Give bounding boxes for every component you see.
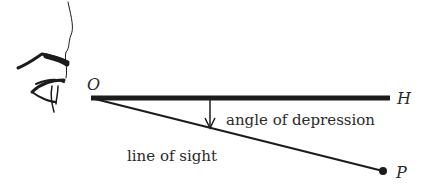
point-p-dot	[379, 167, 387, 175]
angle-of-depression-diagram: O H P angle of depression line of sight	[0, 0, 430, 196]
angle-arrow-icon	[205, 100, 215, 128]
angle-of-depression-label: angle of depression	[226, 111, 375, 129]
label-h: H	[396, 89, 412, 108]
eye-icon	[18, 2, 72, 112]
line-of-sight-label: line of sight	[127, 147, 217, 165]
label-o: O	[87, 75, 100, 94]
label-p: P	[395, 163, 407, 182]
